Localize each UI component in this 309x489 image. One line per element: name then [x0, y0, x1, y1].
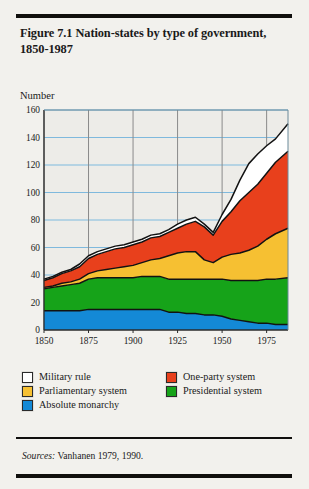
top-divider-rule: [16, 14, 292, 18]
y-tick-label: 160: [26, 105, 40, 115]
legend-item-absolute-monarchy[interactable]: Absolute monarchy: [22, 400, 166, 411]
chart-legend: Military rule One-party system Parliamen…: [22, 372, 286, 414]
legend-item-one-party-system[interactable]: One-party system: [166, 372, 284, 383]
chart-plot-area: 0204060801001201401601850187519001925195…: [20, 104, 292, 356]
legend-label-parliamentary-system: Parliamentary system: [39, 386, 127, 396]
legend-row: Military rule One-party system: [22, 372, 286, 383]
legend-swatch-one-party-system: [166, 372, 177, 383]
legend-swatch-parliamentary-system: [22, 386, 33, 397]
legend-swatch-absolute-monarchy: [22, 400, 33, 411]
legend-row: Absolute monarchy: [22, 400, 286, 411]
x-tick-label: 1925: [168, 336, 187, 346]
y-tick-label: 60: [31, 243, 41, 253]
legend-swatch-presidential-system: [166, 386, 177, 397]
y-axis-label: Number: [20, 90, 54, 101]
figure-page: Figure 7.1 Nation-states by type of gove…: [0, 0, 309, 489]
x-tick-label: 1875: [79, 336, 98, 346]
legend-swatch-military-rule: [22, 372, 33, 383]
y-tick-label: 0: [35, 325, 40, 335]
y-tick-label: 20: [31, 298, 41, 308]
legend-label-one-party-system: One-party system: [183, 372, 255, 382]
legend-row: Parliamentary system Presidential system: [22, 386, 286, 397]
figure-title: Figure 7.1 Nation-states by type of gove…: [20, 26, 282, 58]
y-tick-label: 80: [31, 215, 41, 225]
legend-item-military-rule[interactable]: Military rule: [22, 372, 166, 383]
source-divider-rule: [16, 437, 292, 439]
x-tick-label: 1975: [257, 336, 276, 346]
legend-item-presidential-system[interactable]: Presidential system: [166, 386, 284, 397]
y-tick-label: 140: [26, 133, 40, 143]
source-note: Sources: Vanhanen 1979, 1990.: [22, 450, 143, 461]
legend-label-military-rule: Military rule: [39, 372, 91, 382]
source-prefix: Sources:: [22, 450, 55, 461]
legend-item-parliamentary-system[interactable]: Parliamentary system: [22, 386, 166, 397]
x-tick-label: 1850: [35, 336, 54, 346]
x-tick-label: 1950: [213, 336, 232, 346]
x-tick-label: 1900: [124, 336, 143, 346]
stacked-area-chart: 0204060801001201401601850187519001925195…: [20, 104, 292, 356]
source-text: Vanhanen 1979, 1990.: [55, 450, 143, 461]
y-tick-label: 100: [26, 188, 40, 198]
y-tick-label: 120: [26, 160, 40, 170]
bottom-divider-rule: [16, 474, 292, 478]
y-tick-label: 40: [31, 270, 41, 280]
legend-label-absolute-monarchy: Absolute monarchy: [39, 400, 119, 410]
legend-label-presidential-system: Presidential system: [183, 386, 262, 396]
